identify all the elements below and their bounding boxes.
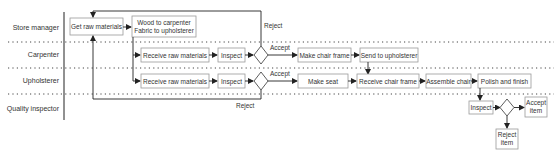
arrow [133,37,140,81]
edge-label-carpenter-reject: Reject [264,22,283,30]
node-assemble-chair-label: Assemble chair [426,78,471,85]
node-reject-item-line2: item [501,139,513,146]
node-send-to-upholsterer-label: Send to upholsterer [361,52,419,60]
node-polish-and-finish-label: Polish and finish [481,78,529,85]
edge-label-upholsterer-reject: Reject [236,102,255,110]
decision-carpenter [254,46,268,64]
lane-label-quality-inspector: Quality inspector [7,105,60,113]
node-receive-chair-frame-label: Receive chair frame [359,78,417,85]
lane-label-upholsterer: Upholsterer [23,77,60,85]
node-distribute-line2: Fabric to upholsterer [134,27,194,35]
swimlane-diagram: Store manager Carpenter Upholsterer Qual… [0,0,554,154]
node-get-raw-materials-label: Get raw materials [71,23,123,30]
decision-upholsterer [254,72,268,90]
edge-label-carpenter-accept: Accept [270,44,290,52]
node-upholsterer-receive-label: Receive raw materials [143,78,208,85]
edge-label-upholsterer-accept: Accept [270,70,290,78]
node-make-seat-label: Make seat [308,78,338,85]
node-upholsterer-inspect-label: Inspect [221,78,242,86]
node-qa-inspect-label: Inspect [471,104,492,112]
node-carpenter-receive-label: Receive raw materials [143,52,208,59]
node-carpenter-inspect-label: Inspect [221,52,242,60]
node-make-chair-frame-label: Make chair frame [299,52,350,59]
node-reject-item-line1: Reject [498,131,517,139]
decision-qa [500,99,514,116]
node-accept-item-line2: item [530,107,542,114]
lane-label-store-manager: Store manager [13,24,60,32]
lane-label-carpenter: Carpenter [28,51,60,59]
node-accept-item-line1: Accept [526,99,546,107]
node-distribute-line1: Wood to carpenter [137,19,191,27]
